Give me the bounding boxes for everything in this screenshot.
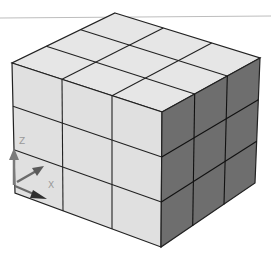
viewport-divider bbox=[0, 16, 271, 18]
cad-viewport[interactable]: Z X bbox=[0, 0, 271, 267]
cube-grid-drawing: Z X bbox=[0, 0, 271, 267]
z-axis-label: Z bbox=[19, 136, 25, 146]
x-axis-label: X bbox=[48, 180, 54, 190]
